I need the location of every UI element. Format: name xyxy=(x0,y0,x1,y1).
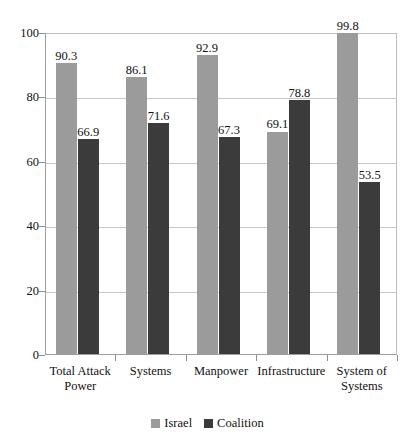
bar-value-label: 90.3 xyxy=(46,50,86,62)
legend-swatch-icon xyxy=(151,419,160,428)
y-tick-label: 40 xyxy=(5,220,39,232)
bar-value-label: 53.5 xyxy=(350,169,390,181)
y-tick-mark xyxy=(39,355,45,356)
bar-value-label: 86.1 xyxy=(117,64,157,76)
y-tick-label: 100 xyxy=(5,27,39,39)
clipped-header-text: ·· · · xyxy=(205,0,234,2)
bar-coalition-4 xyxy=(359,182,380,354)
bar-israel-3 xyxy=(267,132,288,355)
bar-israel-4 xyxy=(337,33,358,354)
x-tick-mark xyxy=(256,355,257,361)
x-category-label: Total Attack Power xyxy=(45,364,115,394)
bar-coalition-3 xyxy=(289,100,310,354)
plot-area: 90.366.986.171.692.967.369.178.899.853.5 xyxy=(45,33,397,355)
x-category-label: System of Systems xyxy=(327,364,397,394)
legend-item-coalition[interactable]: Coalition xyxy=(204,417,264,429)
bar-coalition-0 xyxy=(78,139,99,354)
x-tick-mark xyxy=(115,355,116,361)
x-category-label: Systems xyxy=(115,364,185,379)
bar-chart: ·· · · 020406080100 90.366.986.171.692.9… xyxy=(0,0,415,437)
y-axis: 020406080100 xyxy=(0,0,39,437)
y-tick-label: 80 xyxy=(5,91,39,103)
x-category-label: Manpower xyxy=(186,364,256,379)
chart-legend: IsraelCoalition xyxy=(0,417,415,429)
clipped-header-artifact: ·· · · xyxy=(205,0,385,5)
x-tick-mark xyxy=(397,355,398,361)
y-tick-label: 60 xyxy=(5,156,39,168)
y-tick-label: 0 xyxy=(5,349,39,361)
bar-value-label: 71.6 xyxy=(139,110,179,122)
x-tick-mark xyxy=(186,355,187,361)
bar-coalition-2 xyxy=(219,137,240,354)
y-tick-label: 20 xyxy=(5,285,39,297)
bar-value-label: 78.8 xyxy=(279,87,319,99)
bar-value-label: 99.8 xyxy=(328,20,368,32)
bar-coalition-1 xyxy=(148,123,169,354)
legend-item-israel[interactable]: Israel xyxy=(151,417,192,429)
legend-label: Israel xyxy=(164,417,192,429)
bar-israel-0 xyxy=(56,63,77,354)
bar-israel-2 xyxy=(197,55,218,354)
legend-label: Coalition xyxy=(217,417,264,429)
bar-value-label: 92.9 xyxy=(187,42,227,54)
bar-value-label: 66.9 xyxy=(68,126,108,138)
bar-value-label: 67.3 xyxy=(209,124,249,136)
x-tick-mark xyxy=(327,355,328,361)
legend-swatch-icon xyxy=(204,419,213,428)
x-category-label: Infrastructure xyxy=(256,364,326,379)
